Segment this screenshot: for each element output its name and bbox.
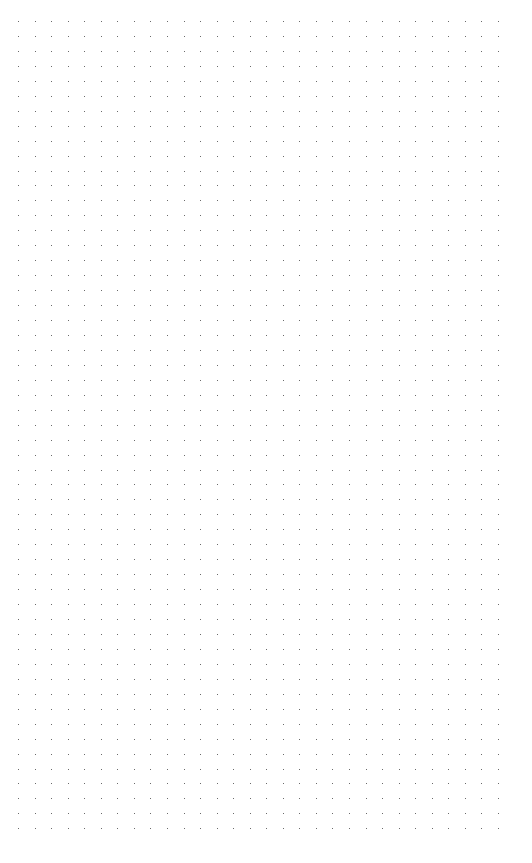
grid-dot (250, 395, 251, 396)
grid-dot (432, 514, 433, 515)
grid-dot (415, 544, 416, 545)
grid-dot (117, 215, 118, 216)
grid-dot (465, 410, 466, 411)
grid-dot (332, 141, 333, 142)
grid-dot (51, 634, 52, 635)
grid-dot (134, 544, 135, 545)
grid-dot (233, 559, 234, 560)
grid-dot (382, 514, 383, 515)
grid-dot (415, 499, 416, 500)
grid-dot (332, 395, 333, 396)
grid-dot (150, 619, 151, 620)
grid-dot (250, 320, 251, 321)
grid-dot (382, 754, 383, 755)
grid-dot (299, 544, 300, 545)
grid-dot (498, 798, 499, 799)
grid-dot (150, 604, 151, 605)
grid-dot (18, 828, 19, 829)
grid-dot (51, 185, 52, 186)
grid-dot (150, 559, 151, 560)
grid-dot (134, 185, 135, 186)
grid-dot (366, 709, 367, 710)
grid-dot (117, 724, 118, 725)
grid-dot (217, 215, 218, 216)
grid-dot (35, 305, 36, 306)
grid-dot (233, 81, 234, 82)
grid-dot (349, 709, 350, 710)
grid-dot (68, 798, 69, 799)
grid-dot (51, 574, 52, 575)
grid-dot (68, 634, 69, 635)
grid-dot (250, 215, 251, 216)
grid-dot (382, 410, 383, 411)
grid-dot (51, 320, 52, 321)
grid-dot (101, 305, 102, 306)
grid-dot (266, 649, 267, 650)
grid-dot (283, 769, 284, 770)
grid-dot (283, 739, 284, 740)
grid-dot (299, 529, 300, 530)
grid-dot (481, 215, 482, 216)
grid-dot (316, 111, 317, 112)
grid-dot (217, 96, 218, 97)
grid-dot (101, 275, 102, 276)
grid-dot (68, 81, 69, 82)
grid-dot (266, 200, 267, 201)
grid-dot (399, 350, 400, 351)
grid-dot (316, 66, 317, 67)
grid-dot (68, 171, 69, 172)
grid-dot (68, 350, 69, 351)
grid-dot (101, 455, 102, 456)
grid-dot (481, 126, 482, 127)
grid-dot (250, 111, 251, 112)
grid-dot (349, 305, 350, 306)
grid-dot (498, 783, 499, 784)
grid-dot (117, 529, 118, 530)
grid-dot (266, 66, 267, 67)
grid-dot (382, 290, 383, 291)
grid-dot (217, 709, 218, 710)
grid-dot (233, 484, 234, 485)
grid-dot (299, 141, 300, 142)
grid-dot (448, 813, 449, 814)
grid-dot (382, 126, 383, 127)
grid-dot (316, 649, 317, 650)
grid-dot (117, 425, 118, 426)
grid-dot (366, 574, 367, 575)
grid-dot (184, 395, 185, 396)
grid-dot (51, 275, 52, 276)
grid-dot (18, 813, 19, 814)
grid-dot (481, 156, 482, 157)
grid-dot (101, 649, 102, 650)
grid-dot (382, 679, 383, 680)
grid-dot (332, 290, 333, 291)
grid-dot (200, 484, 201, 485)
grid-dot (250, 709, 251, 710)
grid-dot (332, 589, 333, 590)
grid-dot (448, 66, 449, 67)
grid-dot (250, 410, 251, 411)
grid-dot (266, 470, 267, 471)
grid-dot (481, 754, 482, 755)
grid-dot (415, 754, 416, 755)
grid-dot (332, 544, 333, 545)
grid-dot (101, 724, 102, 725)
grid-dot (84, 604, 85, 605)
grid-dot (481, 305, 482, 306)
grid-dot (266, 350, 267, 351)
grid-dot (382, 559, 383, 560)
grid-dot (299, 589, 300, 590)
grid-dot (448, 126, 449, 127)
grid-dot (200, 664, 201, 665)
grid-dot (68, 185, 69, 186)
grid-dot (184, 51, 185, 52)
grid-dot (51, 126, 52, 127)
grid-dot (349, 275, 350, 276)
grid-dot (283, 425, 284, 426)
grid-dot (150, 634, 151, 635)
grid-dot (448, 634, 449, 635)
grid-dot (498, 470, 499, 471)
grid-dot (415, 36, 416, 37)
grid-dot (316, 290, 317, 291)
grid-dot (366, 559, 367, 560)
